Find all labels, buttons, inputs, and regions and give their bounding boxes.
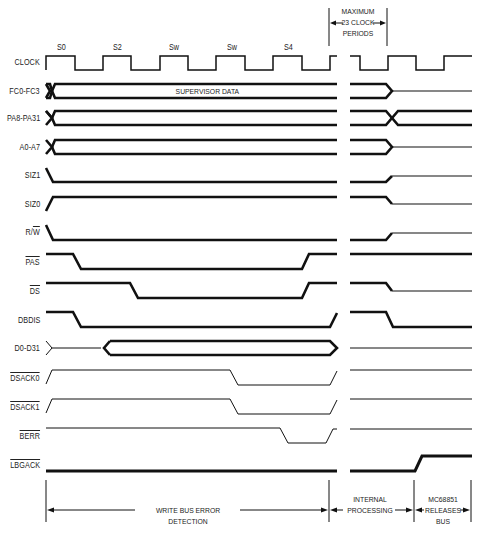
internal-line1: INTERNAL <box>345 494 396 505</box>
signal-label-pa: PA8-PA31 <box>7 113 40 123</box>
signal-label-pas: PAS <box>26 257 40 267</box>
rw-waveform <box>46 225 392 240</box>
signal-label-dsack1: DSACK1 <box>11 402 40 412</box>
signal-label-a: A0-A7 <box>19 142 40 152</box>
signal-label-siz0: SIZ0 <box>24 199 40 209</box>
dsack1-waveform <box>46 399 472 414</box>
lbgack-waveform <box>46 456 472 471</box>
release-line3: BUS <box>422 516 465 527</box>
siz0-waveform <box>46 197 392 211</box>
max-period-annotation: MAXIMUM 23 CLOCK PERIODS <box>334 6 382 39</box>
dbdis-waveform <box>46 312 472 327</box>
state-label-s0: S0 <box>57 42 66 52</box>
data-waveform <box>46 341 472 355</box>
state-label-sw1: Sw <box>169 42 179 52</box>
pa-waveform <box>46 111 472 125</box>
rw-overline-part: W <box>33 227 40 237</box>
max-period-line1: MAXIMUM <box>334 6 382 17</box>
signal-label-ds: DS <box>30 286 40 296</box>
signal-label-berr: BERR <box>20 431 40 441</box>
bus-release-annotation: MC68851 RELEASES BUS <box>422 494 465 527</box>
signal-label-lbgack: LBGACK <box>10 460 40 470</box>
state-label-s2: S2 <box>113 42 122 52</box>
state-label-sw2: Sw <box>227 42 237 52</box>
arrowheads <box>47 21 470 513</box>
fc-bus-label: SUPERVISOR DATA <box>176 86 239 97</box>
signal-label-rw: R/W <box>26 227 40 237</box>
timing-diagram: S0 S2 Sw Sw S4 CLOCK FC0-FC3 PA8-PA31 A0… <box>0 0 484 534</box>
signal-label-clock: CLOCK <box>15 57 40 67</box>
internal-line2: PROCESSING <box>345 505 396 516</box>
state-label-s4: S4 <box>284 42 293 52</box>
signal-label-siz1: SIZ1 <box>24 170 40 180</box>
signal-label-data: D0-D31 <box>15 343 40 353</box>
a-waveform <box>46 140 392 154</box>
siz1-waveform <box>46 168 392 182</box>
signal-label-dbdis: DBDIS <box>17 315 40 325</box>
pas-waveform <box>46 254 472 269</box>
internal-processing-annotation: INTERNAL PROCESSING <box>345 494 396 516</box>
dsack0-waveform <box>46 370 472 385</box>
release-line1: MC68851 <box>422 494 465 505</box>
signal-label-dsack0: DSACK0 <box>11 373 40 383</box>
max-period-line2: 23 CLOCK <box>334 17 382 28</box>
clock-waveform <box>46 56 472 70</box>
release-line2: RELEASES <box>422 505 465 516</box>
waveform-canvas <box>0 0 484 534</box>
ds-waveform <box>46 283 392 298</box>
berr-waveform <box>46 428 472 443</box>
max-period-line3: PERIODS <box>334 28 382 39</box>
write-bus-error-annotation: WRITE BUS ERROR DETECTION <box>140 505 235 527</box>
signal-label-fc: FC0-FC3 <box>10 86 40 96</box>
